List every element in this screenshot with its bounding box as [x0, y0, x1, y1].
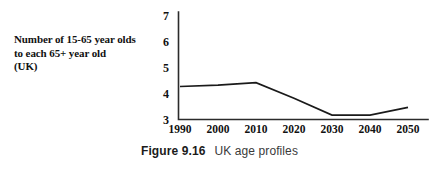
data-series-line [180, 83, 408, 116]
x-tick-label-2040: 2040 [359, 123, 382, 135]
figure-caption: Figure 9.16UK age profiles [0, 144, 439, 158]
figure-title: UK age profiles [214, 144, 298, 158]
y-tick-label-7: 7 [163, 9, 169, 23]
x-tick-label-2020: 2020 [283, 123, 306, 135]
figure-number: Figure 9.16 [141, 144, 205, 158]
x-tick-label-1990: 1990 [169, 123, 192, 135]
x-tick-label-2000: 2000 [207, 123, 230, 135]
figure-container: Number of 15-65 year olds to each 65+ ye… [0, 0, 439, 170]
x-axis-tick-labels: 1990 2000 2010 2020 2030 2040 2050 [169, 123, 420, 135]
y-tick-label-5: 5 [163, 61, 169, 75]
y-tick-label-4: 4 [163, 87, 169, 101]
y-axis-tick-labels: 7 6 5 4 3 [163, 9, 169, 127]
y-tick-label-6: 6 [163, 35, 169, 49]
chart-axes [179, 12, 429, 120]
x-tick-label-2050: 2050 [397, 123, 420, 135]
x-tick-label-2010: 2010 [245, 123, 268, 135]
x-tick-label-2030: 2030 [321, 123, 344, 135]
